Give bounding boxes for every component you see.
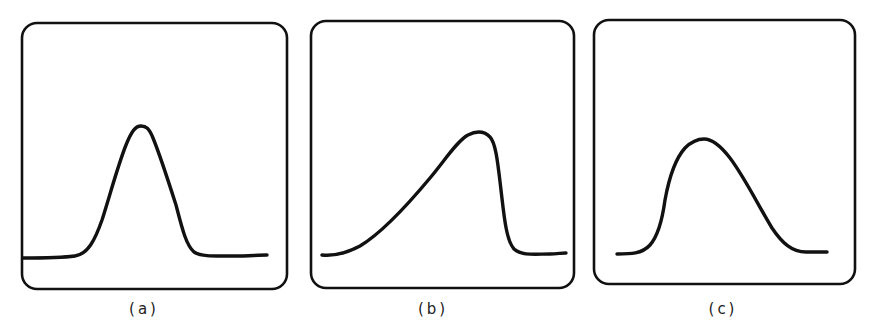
panel-c xyxy=(594,20,855,284)
panel-b-label: (b) xyxy=(418,300,448,318)
panel-a-frame xyxy=(22,23,287,289)
panel-c-label: (c) xyxy=(709,300,738,318)
panel-a xyxy=(22,23,287,289)
panel-b-frame xyxy=(311,21,574,288)
panel-a-peak-curve xyxy=(23,126,267,258)
panel-b-peak-curve xyxy=(322,132,566,255)
panel-c-peak-curve xyxy=(617,139,827,254)
panel-b xyxy=(311,21,574,288)
peak-shapes-figure xyxy=(0,0,878,325)
panel-a-label: (a) xyxy=(129,300,159,318)
